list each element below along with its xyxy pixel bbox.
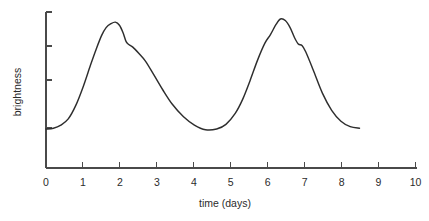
x-tick-label-3: 3: [154, 176, 160, 188]
light-curve-figure: 0 1 2 3 4 5 6 7 8 9 10 time (days) brigh…: [0, 0, 429, 221]
y-axis-title: brightness: [11, 68, 23, 116]
x-tick-label-9: 9: [376, 176, 382, 188]
x-tick-label-0: 0: [43, 176, 49, 188]
brightness-curve: [46, 19, 360, 130]
x-tick-label-8: 8: [339, 176, 345, 188]
x-tick-label-7: 7: [302, 176, 308, 188]
x-tick-label-4: 4: [191, 176, 197, 188]
x-tick-label-10: 10: [410, 176, 422, 188]
y-axis-ticks: [46, 12, 52, 128]
chart-canvas: 0 1 2 3 4 5 6 7 8 9 10 time (days) brigh…: [0, 0, 429, 221]
x-tick-label-6: 6: [265, 176, 271, 188]
x-axis-ticks: [46, 162, 416, 168]
x-axis-title: time (days): [199, 197, 251, 209]
x-tick-label-2: 2: [117, 176, 123, 188]
x-tick-label-1: 1: [80, 176, 86, 188]
x-tick-label-5: 5: [228, 176, 234, 188]
